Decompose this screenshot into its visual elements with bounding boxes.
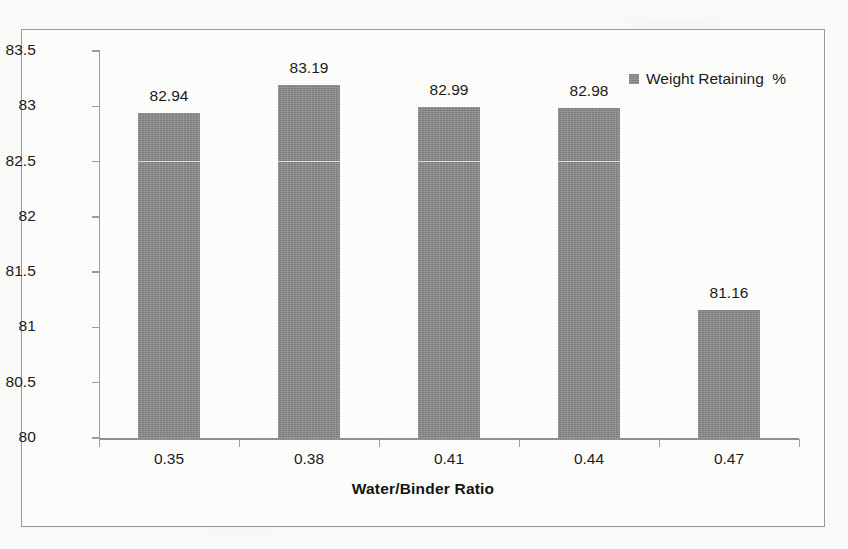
y-axis-tick [92, 161, 100, 162]
x-axis-category-label: 0.41 [404, 450, 494, 468]
y-axis-tick-label: 82.5 [5, 152, 36, 170]
legend-label: Weight Retaining % [646, 70, 786, 88]
y-axis-tick [92, 50, 100, 51]
y-axis-tick-label: 80.5 [5, 373, 36, 391]
y-axis-tick [92, 382, 100, 383]
legend-swatch-icon [629, 74, 639, 84]
bar-value-label: 81.16 [684, 284, 774, 302]
scan-gridline-artifact [100, 161, 798, 162]
x-axis-line [99, 438, 799, 440]
x-axis-category-label: 0.35 [124, 450, 214, 468]
x-axis-tick [799, 439, 800, 447]
bar [698, 310, 760, 438]
y-axis-tick-label: 82 [19, 207, 36, 225]
bar-value-label: 82.98 [544, 82, 634, 100]
x-axis-category-label: 0.38 [264, 450, 354, 468]
x-axis-tick [99, 439, 100, 447]
y-axis-tick [92, 216, 100, 217]
x-axis-category-label: 0.44 [544, 450, 634, 468]
bar-value-label: 82.94 [124, 87, 214, 105]
x-axis-tick [519, 439, 520, 447]
chart-frame: 83.58382.58281.58180.58082.940.3583.190.… [21, 29, 825, 527]
bar [278, 85, 340, 438]
x-axis-tick [659, 439, 660, 447]
y-axis-tick-label: 83.5 [5, 41, 36, 59]
y-axis-tick [92, 327, 100, 328]
bar [558, 108, 620, 438]
x-axis-category-label: 0.47 [684, 450, 774, 468]
x-axis-title: Water/Binder Ratio [22, 480, 824, 498]
bar [418, 107, 480, 438]
y-axis-tick-label: 81.5 [5, 262, 36, 280]
bar-value-label: 83.19 [264, 59, 354, 77]
x-axis-tick [379, 439, 380, 447]
y-axis-tick [92, 106, 100, 107]
bar-value-label: 82.99 [404, 81, 494, 99]
y-axis-line [99, 51, 100, 439]
y-axis-tick-label: 83 [19, 96, 36, 114]
plot-area: 83.58382.58281.58180.58082.940.3583.190.… [22, 30, 824, 526]
x-axis-tick [239, 439, 240, 447]
y-axis-tick-label: 81 [19, 317, 36, 335]
y-axis-tick-label: 80 [19, 428, 36, 446]
y-axis-tick [92, 271, 100, 272]
chart-legend: Weight Retaining % [629, 70, 786, 88]
